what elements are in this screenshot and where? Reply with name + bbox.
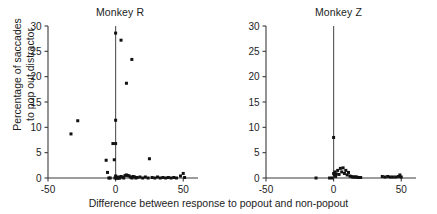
data-point xyxy=(384,175,387,178)
data-point xyxy=(76,119,79,122)
data-point xyxy=(144,175,147,178)
y-tick-label: 10 xyxy=(248,122,260,133)
data-point xyxy=(175,177,178,180)
panel-monkey-z: 051015202530-50050 xyxy=(248,21,416,195)
figure-container: Monkey R Monkey Z Percentage of saccades… xyxy=(0,0,437,214)
data-point xyxy=(392,175,395,178)
data-point xyxy=(394,175,397,178)
data-point xyxy=(161,176,164,179)
data-point xyxy=(335,172,338,175)
data-point xyxy=(389,175,392,178)
data-point xyxy=(114,32,117,35)
y-axis-label-line2: to pop out distractor xyxy=(23,0,36,160)
data-point xyxy=(179,174,182,177)
y-tick-label: 0 xyxy=(36,173,42,184)
data-point xyxy=(347,171,350,174)
data-point xyxy=(114,119,117,122)
data-point xyxy=(141,177,144,180)
data-point xyxy=(170,177,173,180)
data-point xyxy=(344,169,347,172)
data-point xyxy=(153,177,156,180)
x-tick-label: 0 xyxy=(331,184,337,195)
data-point xyxy=(69,132,72,135)
data-point xyxy=(136,176,139,179)
data-point xyxy=(113,158,116,161)
y-tick-label: 5 xyxy=(254,147,260,158)
data-point xyxy=(105,159,108,162)
data-point xyxy=(359,176,362,179)
y-tick-label: 20 xyxy=(248,71,260,82)
panel-monkey-r: 051015202530-50050 xyxy=(30,21,198,195)
scatter-plot-svg: 051015202530-50050051015202530-50050 xyxy=(0,0,437,214)
data-point xyxy=(381,175,384,178)
panel-title-monkey-r: Monkey R xyxy=(96,6,144,18)
data-point xyxy=(315,177,318,180)
data-point xyxy=(343,172,346,175)
data-point xyxy=(328,177,331,180)
data-point xyxy=(172,176,175,179)
y-axis-label: Percentage of saccades to pop out distra… xyxy=(11,0,36,160)
x-tick-label: 50 xyxy=(178,184,190,195)
data-point xyxy=(106,171,109,174)
data-point xyxy=(386,175,389,178)
data-point xyxy=(120,39,123,42)
data-point xyxy=(167,176,170,179)
data-point xyxy=(130,58,133,61)
data-point xyxy=(159,177,162,180)
data-point xyxy=(340,170,343,173)
x-axis-label: Difference between response to popout an… xyxy=(0,197,437,209)
data-point xyxy=(339,167,342,170)
y-axis-label-line1: Percentage of saccades xyxy=(11,0,24,160)
data-point xyxy=(147,177,150,180)
data-point xyxy=(400,175,403,178)
data-point xyxy=(338,173,341,176)
data-point xyxy=(331,177,334,180)
y-tick-label: 30 xyxy=(248,21,260,32)
data-point xyxy=(148,157,151,160)
panel-title-monkey-z: Monkey Z xyxy=(315,6,362,18)
data-point xyxy=(111,142,114,145)
data-point xyxy=(164,177,167,180)
data-point xyxy=(114,142,117,145)
data-point xyxy=(156,175,159,178)
x-tick-label: -50 xyxy=(259,184,274,195)
data-point xyxy=(151,176,154,179)
data-point xyxy=(336,169,339,172)
data-point xyxy=(109,177,112,180)
data-point xyxy=(138,175,141,178)
data-point xyxy=(332,136,335,139)
x-tick-label: -50 xyxy=(41,184,56,195)
x-tick-label: 50 xyxy=(396,184,408,195)
x-tick-label: 0 xyxy=(113,184,119,195)
y-tick-label: 5 xyxy=(36,147,42,158)
data-point xyxy=(182,172,185,175)
y-tick-label: 25 xyxy=(248,46,260,57)
data-point xyxy=(342,166,345,169)
data-point xyxy=(183,176,186,179)
y-tick-label: 15 xyxy=(248,97,260,108)
data-point xyxy=(125,82,128,85)
y-tick-label: 0 xyxy=(254,173,260,184)
